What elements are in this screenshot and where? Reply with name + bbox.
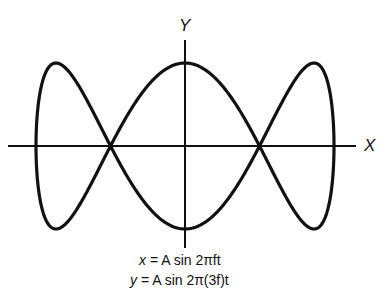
equation-x-rhs: A sin 2πft: [161, 252, 220, 268]
y-axis-label: Y: [179, 16, 190, 36]
x-axis-label: X: [364, 136, 375, 156]
equation-y: y = A sin 2π(3f)t: [130, 272, 229, 288]
equation-y-rhs: A sin 2π(3f)t: [152, 272, 229, 288]
equation-x: x = A sin 2πft: [139, 252, 221, 268]
equation-y-lhs: y: [130, 272, 137, 288]
equation-x-lhs: x: [139, 252, 146, 268]
lissajous-diagram: Y X x = A sin 2πft y = A sin 2π(3f)t: [0, 0, 386, 299]
